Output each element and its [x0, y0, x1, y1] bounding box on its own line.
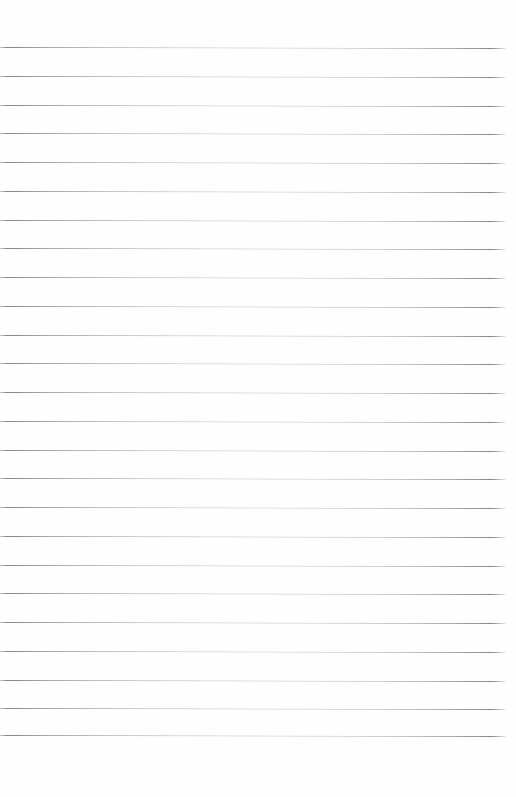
- writing-row[interactable]: [0, 163, 506, 191]
- writing-row[interactable]: [0, 393, 506, 421]
- writing-row[interactable]: [0, 422, 506, 450]
- writing-row[interactable]: [0, 508, 506, 536]
- writing-row[interactable]: [0, 681, 506, 709]
- writing-row[interactable]: [0, 134, 506, 162]
- writing-row[interactable]: [0, 594, 506, 622]
- writing-row[interactable]: [0, 336, 506, 364]
- writing-row[interactable]: [0, 221, 506, 249]
- writing-row[interactable]: [0, 77, 506, 105]
- writing-row[interactable]: [0, 307, 506, 335]
- writing-row[interactable]: [0, 537, 506, 565]
- lined-paper-sheet: [0, 0, 516, 797]
- writing-row[interactable]: [0, 106, 506, 134]
- writing-row[interactable]: [0, 566, 506, 594]
- writing-row[interactable]: [0, 48, 506, 76]
- writing-row[interactable]: [0, 709, 506, 735]
- writing-row[interactable]: [0, 192, 506, 220]
- writing-row[interactable]: [0, 451, 506, 479]
- writing-row[interactable]: [0, 652, 506, 680]
- writing-row[interactable]: [0, 623, 506, 651]
- writing-row[interactable]: [0, 278, 506, 306]
- writing-row[interactable]: [0, 479, 506, 507]
- writing-row[interactable]: [0, 364, 506, 392]
- writing-row[interactable]: [0, 249, 506, 277]
- bottom-margin-area: [0, 735, 516, 797]
